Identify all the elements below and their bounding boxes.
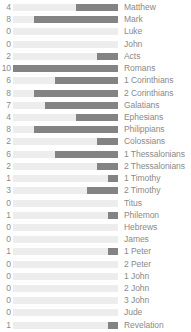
- bar-track: [13, 53, 118, 60]
- bar-row: 61 Thessalonians: [0, 149, 191, 160]
- bar-category-label: Titus: [124, 198, 191, 209]
- bar-fill: [55, 151, 118, 158]
- bar-row: 61 Corinthians: [0, 75, 191, 86]
- bar-fill: [76, 4, 118, 11]
- bar-category-label: 2 Timothy: [124, 185, 191, 196]
- bar-category-label: 3 John: [124, 295, 191, 306]
- bar-category-label: Matthew: [124, 2, 191, 13]
- bar-row: 1Philemon: [0, 210, 191, 221]
- bar-category-label: 1 Peter: [124, 246, 191, 257]
- bar-row: 8Philippians: [0, 124, 191, 135]
- bar-row: 0Titus: [0, 198, 191, 209]
- bar-category-label: 2 Peter: [124, 259, 191, 270]
- bar-value-label: 4: [0, 2, 11, 13]
- bar-track: [13, 322, 118, 329]
- bar-value-label: 6: [0, 149, 11, 160]
- bar-track: [13, 285, 118, 292]
- bar-value-label: 10: [0, 63, 11, 74]
- bar-row: 4Matthew: [0, 2, 191, 13]
- bar-category-label: 1 John: [124, 271, 191, 282]
- bar-value-label: 0: [0, 295, 11, 306]
- bar-fill: [97, 53, 118, 60]
- bar-value-label: 0: [0, 234, 11, 245]
- bar-value-label: 8: [0, 14, 11, 25]
- bar-category-label: James: [124, 234, 191, 245]
- bar-fill: [34, 90, 118, 97]
- bar-category-label: Revelation: [124, 320, 191, 331]
- bar-fill: [97, 138, 118, 145]
- bar-row: 0John: [0, 39, 191, 50]
- bar-category-label: Colossians: [124, 136, 191, 147]
- bar-value-label: 2: [0, 136, 11, 147]
- bar-value-label: 0: [0, 26, 11, 37]
- bar-category-label: Acts: [124, 51, 191, 62]
- bar-row: 03 John: [0, 295, 191, 306]
- bar-value-label: 1: [0, 246, 11, 257]
- bar-row: 01 John: [0, 271, 191, 282]
- bar-fill: [108, 212, 119, 219]
- bar-row: 22 Thessalonians: [0, 161, 191, 172]
- bar-track: [13, 138, 118, 145]
- bar-track: [13, 248, 118, 255]
- bar-value-label: 2: [0, 51, 11, 62]
- bar-value-label: 1: [0, 320, 11, 331]
- bar-value-label: 3: [0, 185, 11, 196]
- bar-row: 1Revelation: [0, 320, 191, 331]
- bar-track: [13, 16, 118, 23]
- bar-row: 7Galatians: [0, 100, 191, 111]
- bar-track: [13, 297, 118, 304]
- bar-track: [13, 4, 118, 11]
- bar-fill: [97, 163, 118, 170]
- bar-value-label: 8: [0, 88, 11, 99]
- bar-row: 10Romans: [0, 63, 191, 74]
- bar-row: 0Jude: [0, 307, 191, 318]
- bar-row: 02 John: [0, 283, 191, 294]
- bar-row: 0Luke: [0, 26, 191, 37]
- bar-value-label: 0: [0, 222, 11, 233]
- bar-fill: [108, 175, 119, 182]
- bar-row: 02 Peter: [0, 259, 191, 270]
- bar-category-label: Hebrews: [124, 222, 191, 233]
- bar-row: 2Colossians: [0, 136, 191, 147]
- bar-track: [13, 65, 118, 72]
- bar-value-label: 0: [0, 198, 11, 209]
- bar-value-label: 0: [0, 39, 11, 50]
- bar-track: [13, 187, 118, 194]
- bar-track: [13, 41, 118, 48]
- bar-fill: [76, 114, 118, 121]
- bar-row: 11 Peter: [0, 246, 191, 257]
- bar-value-label: 0: [0, 259, 11, 270]
- bar-fill: [34, 126, 118, 133]
- bar-row: 82 Corinthians: [0, 88, 191, 99]
- bar-track: [13, 77, 118, 84]
- bar-track: [13, 200, 118, 207]
- bar-track: [13, 114, 118, 121]
- bar-value-label: 1: [0, 210, 11, 221]
- bar-fill: [55, 77, 118, 84]
- bar-category-label: Luke: [124, 26, 191, 37]
- bar-track: [13, 309, 118, 316]
- bar-value-label: 0: [0, 283, 11, 294]
- bar-fill: [87, 187, 119, 194]
- bar-row: 8Mark: [0, 14, 191, 25]
- bar-value-label: 8: [0, 124, 11, 135]
- bar-value-label: 7: [0, 100, 11, 111]
- bar-fill: [34, 16, 118, 23]
- bar-track: [13, 102, 118, 109]
- bar-value-label: 2: [0, 161, 11, 172]
- bar-value-label: 0: [0, 307, 11, 318]
- bar-track: [13, 163, 118, 170]
- bar-row: 2Acts: [0, 51, 191, 62]
- bar-category-label: 1 Timothy: [124, 173, 191, 184]
- bar-track: [13, 236, 118, 243]
- bar-row: 11 Timothy: [0, 173, 191, 184]
- bar-category-label: 2 Corinthians: [124, 88, 191, 99]
- bar-category-label: Mark: [124, 14, 191, 25]
- bar-track: [13, 151, 118, 158]
- bar-track: [13, 175, 118, 182]
- bar-category-label: John: [124, 39, 191, 50]
- bar-category-label: Ephesians: [124, 112, 191, 123]
- bar-fill: [13, 65, 118, 72]
- bar-category-label: Philippians: [124, 124, 191, 135]
- bar-row: 32 Timothy: [0, 185, 191, 196]
